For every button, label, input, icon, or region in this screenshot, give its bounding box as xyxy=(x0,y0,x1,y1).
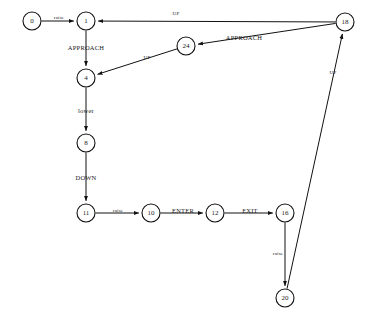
edge-label-n4-to-n8: lower xyxy=(78,107,94,114)
edge-label-n10-to-n12: ENTER xyxy=(172,207,194,214)
state-node-8[interactable]: 8 xyxy=(77,134,95,152)
edge-label-n16-to-n20: raise xyxy=(273,251,284,256)
edge-label-n11-to-n10: raise xyxy=(113,208,124,213)
edge-label-n24-to-n4: UP xyxy=(144,55,151,60)
state-node-label-0: 0 xyxy=(30,17,34,25)
state-node-20[interactable]: 20 xyxy=(276,289,294,307)
state-node-12[interactable]: 12 xyxy=(206,204,224,222)
edge-n18-to-n24 xyxy=(198,23,336,44)
state-node-1[interactable]: 1 xyxy=(77,12,95,30)
state-node-label-8: 8 xyxy=(84,139,88,147)
edge-label-n18-to-n24: APPROACH xyxy=(226,34,262,41)
state-node-label-18: 18 xyxy=(342,18,350,26)
state-node-label-4: 4 xyxy=(84,74,88,82)
state-node-label-20: 20 xyxy=(282,294,290,302)
state-node-label-16: 16 xyxy=(282,209,290,217)
edge-n18-to-n1 xyxy=(98,21,335,22)
state-node-label-11: 11 xyxy=(83,209,90,217)
edge-label-n18-to-n1: UP xyxy=(173,11,180,16)
edge-label-n1-to-n4: APPROACH xyxy=(68,44,104,51)
state-node-4[interactable]: 4 xyxy=(77,69,95,87)
state-node-11[interactable]: 11 xyxy=(77,204,95,222)
edge-label-n8-to-n11: DOWN xyxy=(75,174,96,181)
state-node-0[interactable]: 0 xyxy=(23,12,41,30)
state-node-10[interactable]: 10 xyxy=(142,204,160,222)
state-node-label-10: 10 xyxy=(148,209,156,217)
state-node-24[interactable]: 24 xyxy=(177,37,195,55)
edges-layer xyxy=(42,21,343,289)
state-node-label-12: 12 xyxy=(212,209,220,217)
state-node-label-24: 24 xyxy=(183,42,191,50)
state-node-label-1: 1 xyxy=(84,17,88,25)
edge-label-n0-to-n1: raise xyxy=(54,15,65,20)
nodes-layer: 011824481110121620 xyxy=(23,12,354,307)
state-diagram-canvas: 011824481110121620 raiseUPAPPROACHAPPROA… xyxy=(0,0,368,327)
state-node-16[interactable]: 16 xyxy=(276,204,294,222)
edge-n24-to-n4 xyxy=(98,49,177,74)
edge-label-n12-to-n16: EXIT xyxy=(242,207,258,214)
edge-label-n20-to-n18: UP xyxy=(330,70,337,75)
state-node-18[interactable]: 18 xyxy=(336,13,354,31)
